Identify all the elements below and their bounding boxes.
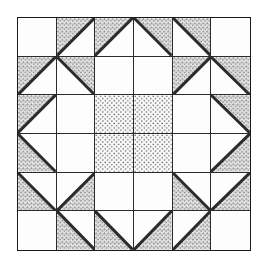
patch-fill-plain: [57, 134, 95, 172]
quilt-cell-r2-c2-triangle-tr-floral: [57, 57, 96, 96]
quilt-cell-r6-c4-triangle-br-floral: [134, 211, 173, 250]
patch-fill-plain: [134, 57, 172, 95]
quilt-cell-r4-c1-triangle-bl-floral: [18, 134, 57, 173]
quilt-cell-r4-c4-square-heart: [134, 134, 173, 173]
patch-fill-plain: [173, 134, 211, 172]
quilt-cell-r2-c4-square-plain: [134, 57, 173, 96]
quilt-cell-r3-c4-square-heart: [134, 95, 173, 134]
quilt-cell-r4-c2-square-plain: [57, 134, 96, 173]
quilt-cell-r5-c3-square-plain: [95, 173, 134, 212]
quilt-cell-r5-c1-triangle-bl-floral: [18, 173, 57, 212]
quilt-cell-r1-c2-triangle-tl-floral: [57, 18, 96, 57]
patch-fill-plain: [211, 211, 250, 250]
quilt-cell-r4-c3-square-heart: [95, 134, 134, 173]
quilt-cell-r5-c5-triangle-bl-floral: [173, 173, 212, 212]
quilt-cell-r1-c3-triangle-tl-floral: [95, 18, 134, 57]
quilt-cell-r1-c4-triangle-tr-floral: [134, 18, 173, 57]
patch-fill-plain: [134, 173, 172, 211]
quilt-cell-r3-c3-square-heart: [95, 95, 134, 134]
quilt-cell-r4-c6-triangle-br-floral: [211, 134, 250, 173]
patch-fill-plain: [18, 211, 56, 250]
patch-fill-plain: [173, 95, 211, 133]
patch-fill-heart: [134, 134, 172, 172]
quilt-cell-r6-c5-triangle-br-floral: [173, 211, 212, 250]
quilt-cell-r5-c4-square-plain: [134, 173, 173, 212]
patch-fill-heart: [134, 95, 172, 133]
patch-fill-plain: [18, 18, 56, 56]
patch-fill-heart: [95, 95, 133, 133]
patch-fill-plain: [95, 57, 133, 95]
quilt-cell-r1-c1-square-plain: [18, 18, 57, 57]
quilt-cell-r1-c5-triangle-tr-floral: [173, 18, 212, 57]
quilt-block-outer-border: [17, 17, 251, 251]
quilt-cell-r6-c2-triangle-bl-floral: [57, 211, 96, 250]
quilt-cell-r6-c3-triangle-bl-floral: [95, 211, 134, 250]
quilt-cell-r2-c6-triangle-tr-floral: [211, 57, 250, 96]
quilt-cell-r3-c1-triangle-tl-floral: [18, 95, 57, 134]
quilt-cell-r2-c5-triangle-tl-floral: [173, 57, 212, 96]
quilt-cell-r3-c2-square-plain: [57, 95, 96, 134]
quilt-cell-r3-c5-square-plain: [173, 95, 212, 134]
quilt-cell-r3-c6-triangle-tr-floral: [211, 95, 250, 134]
quilt-cell-r2-c3-square-plain: [95, 57, 134, 96]
quilt-block-grid: [18, 18, 250, 250]
quilt-cell-r5-c6-triangle-br-floral: [211, 173, 250, 212]
quilt-cell-r6-c1-square-plain: [18, 211, 57, 250]
quilt-cell-r6-c6-square-plain: [211, 211, 250, 250]
quilt-cell-r4-c5-square-plain: [173, 134, 212, 173]
patch-fill-plain: [95, 173, 133, 211]
patch-fill-plain: [211, 18, 250, 56]
patch-fill-plain: [57, 95, 95, 133]
quilt-cell-r1-c6-square-plain: [211, 18, 250, 57]
quilt-cell-r5-c2-triangle-br-floral: [57, 173, 96, 212]
patch-fill-heart: [95, 134, 133, 172]
quilt-cell-r2-c1-triangle-tl-floral: [18, 57, 57, 96]
quilt-block-diagram-page: [0, 0, 265, 273]
